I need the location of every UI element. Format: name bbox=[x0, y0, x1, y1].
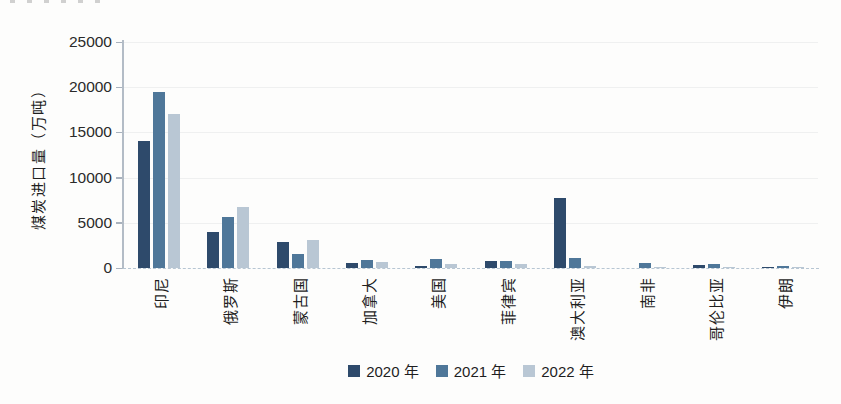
bar bbox=[693, 265, 705, 268]
x-axis-label: 澳大利亚 bbox=[566, 277, 587, 341]
bar bbox=[346, 263, 358, 268]
chart-legend: 2020 年2021 年2022 年 bbox=[124, 360, 818, 381]
bar-group-6 bbox=[471, 42, 540, 268]
bar-group-4 bbox=[332, 42, 401, 268]
bar-group-3 bbox=[263, 42, 332, 268]
bar bbox=[500, 261, 512, 268]
x-axis-label: 美国 bbox=[427, 277, 448, 309]
bar bbox=[207, 232, 219, 268]
bar bbox=[777, 266, 789, 268]
legend-swatch-icon bbox=[523, 365, 535, 377]
bar bbox=[723, 267, 735, 269]
chart-figure: 煤炭进口量（万吨） 0500010000150002000025000 印尼俄罗… bbox=[0, 0, 841, 404]
x-axis-label: 加拿大 bbox=[358, 277, 379, 325]
x-axis-label: 哥伦比亚 bbox=[705, 277, 726, 341]
legend-swatch-icon bbox=[348, 365, 360, 377]
bar-group-8 bbox=[610, 42, 679, 268]
x-label-slot: 南非 bbox=[610, 277, 679, 361]
y-tick-label: 15000 bbox=[58, 123, 112, 141]
y-tick-label: 10000 bbox=[58, 169, 112, 187]
y-tick-label: 0 bbox=[58, 259, 112, 277]
bar bbox=[222, 217, 234, 268]
x-axis-label: 印尼 bbox=[150, 277, 171, 309]
bar bbox=[445, 264, 457, 268]
legend-item: 2021 年 bbox=[436, 360, 507, 381]
bar bbox=[792, 267, 804, 269]
plot-area bbox=[124, 42, 818, 268]
bar bbox=[639, 263, 651, 268]
bar bbox=[569, 258, 581, 268]
x-label-slot: 俄罗斯 bbox=[193, 277, 262, 361]
bar-group-9 bbox=[679, 42, 748, 268]
x-axis-label: 伊朗 bbox=[774, 277, 795, 309]
bar-group-1 bbox=[124, 42, 193, 268]
legend-label: 2022 年 bbox=[541, 360, 594, 381]
bar bbox=[415, 266, 427, 268]
bar-group-2 bbox=[193, 42, 262, 268]
legend-swatch-icon bbox=[436, 365, 448, 377]
x-label-slot: 哥伦比亚 bbox=[679, 277, 748, 361]
y-tick-label: 25000 bbox=[58, 33, 112, 51]
x-label-slot: 加拿大 bbox=[332, 277, 401, 361]
x-label-slot: 伊朗 bbox=[749, 277, 818, 361]
x-axis-baseline bbox=[123, 268, 819, 269]
bar-group-5 bbox=[402, 42, 471, 268]
bar bbox=[277, 242, 289, 268]
x-axis-label: 俄罗斯 bbox=[219, 277, 240, 325]
legend-item: 2020 年 bbox=[348, 360, 419, 381]
legend-item: 2022 年 bbox=[523, 360, 594, 381]
legend-label: 2021 年 bbox=[454, 360, 507, 381]
y-tick-label: 20000 bbox=[58, 78, 112, 96]
x-axis-label: 蒙古国 bbox=[289, 277, 310, 325]
cropped-text-remnant bbox=[10, 0, 110, 3]
x-label-slot: 蒙古国 bbox=[263, 277, 332, 361]
x-label-slot: 美国 bbox=[402, 277, 471, 361]
bar bbox=[153, 92, 165, 268]
bar-group-7 bbox=[540, 42, 609, 268]
bar bbox=[584, 266, 596, 268]
y-axis-title: 煤炭进口量（万吨） bbox=[27, 82, 48, 231]
x-label-slot: 澳大利亚 bbox=[540, 277, 609, 361]
bar bbox=[361, 260, 373, 268]
bar bbox=[515, 264, 527, 268]
bar bbox=[292, 254, 304, 268]
bar bbox=[430, 259, 442, 268]
bar bbox=[307, 240, 319, 268]
bar bbox=[485, 261, 497, 268]
x-label-slot: 菲律宾 bbox=[471, 277, 540, 361]
x-axis-label: 菲律宾 bbox=[497, 277, 518, 325]
bar bbox=[554, 198, 566, 269]
bar bbox=[708, 264, 720, 268]
legend-label: 2020 年 bbox=[366, 360, 419, 381]
bar bbox=[168, 114, 180, 268]
x-axis-labels: 印尼俄罗斯蒙古国加拿大美国菲律宾澳大利亚南非哥伦比亚伊朗 bbox=[124, 277, 818, 361]
bar bbox=[376, 262, 388, 268]
bar bbox=[138, 141, 150, 268]
bar bbox=[654, 267, 666, 269]
y-tick-label: 5000 bbox=[58, 214, 112, 232]
x-label-slot: 印尼 bbox=[124, 277, 193, 361]
bar-group-10 bbox=[749, 42, 818, 268]
bar bbox=[237, 207, 249, 268]
x-axis-label: 南非 bbox=[636, 277, 657, 309]
bar bbox=[762, 267, 774, 269]
